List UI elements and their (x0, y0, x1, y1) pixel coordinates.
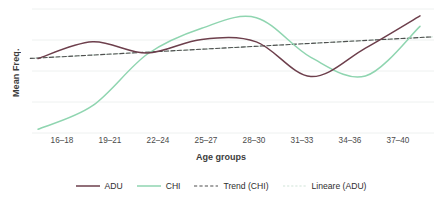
x-tick-label: 28–30 (230, 136, 278, 145)
gridlines (32, 9, 434, 133)
legend-swatch-icon (76, 182, 100, 190)
legend-item-adu[interactable]: ADU (76, 181, 123, 191)
series-lines (30, 16, 432, 129)
x-axis-label: Age groups (0, 152, 442, 162)
legend-item-trend-chi[interactable]: Trend (CHI) (194, 181, 268, 191)
legend-swatch-icon (194, 182, 218, 190)
x-tick-label: 31–33 (278, 136, 326, 145)
legend-item-lineare-adu[interactable]: Lineare (ADU) (283, 181, 367, 191)
chart-container: Mean Freq. 16–1819–2122–2425–2728–3031–3… (0, 0, 442, 205)
x-tick-label: 37–40 (374, 136, 422, 145)
legend-label: CHI (166, 181, 181, 191)
legend-label: Lineare (ADU) (312, 181, 367, 191)
x-axis-tick-labels: 16–1819–2122–2425–2728–3031–3334–3637–40 (38, 136, 422, 150)
x-tick-label: 22–24 (134, 136, 182, 145)
x-tick-label: 16–18 (38, 136, 86, 145)
x-tick-label: 19–21 (86, 136, 134, 145)
chart-legend: ADUCHITrend (CHI)Lineare (ADU) (0, 181, 442, 191)
x-tick-label: 34–36 (326, 136, 374, 145)
legend-item-chi[interactable]: CHI (137, 181, 181, 191)
legend-label: ADU (105, 181, 123, 191)
series-line-adu (38, 16, 420, 77)
legend-swatch-icon (283, 182, 307, 190)
y-axis-label: Mean Freq. (8, 38, 24, 108)
series-line-chi (38, 16, 420, 129)
legend-label: Trend (CHI) (223, 181, 268, 191)
plot-area (0, 0, 442, 205)
x-tick-label: 25–27 (182, 136, 230, 145)
legend-swatch-icon (137, 182, 161, 190)
